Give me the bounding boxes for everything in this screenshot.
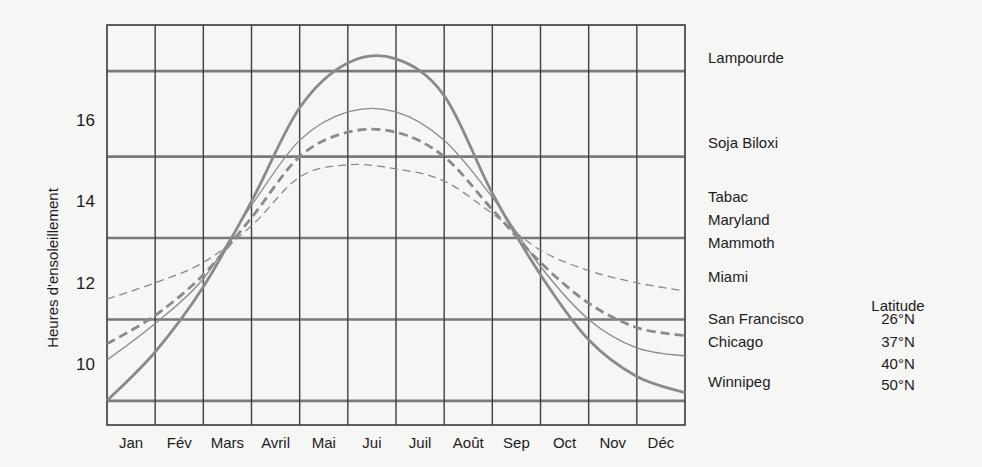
month-label: Déc [648, 434, 675, 451]
city-label: Chicago [708, 333, 763, 350]
city-label: Winnipeg [708, 373, 771, 390]
chart-plot-area: JanFévMarsAvrilMaiJuiJuilAoûtSepOctNovDé… [0, 0, 982, 467]
latitude-value: 40°N [858, 355, 938, 372]
x-axis-month-labels: JanFévMarsAvrilMaiJuiJuilAoûtSepOctNovDé… [119, 434, 675, 451]
photoperiod-chart: JanFévMarsAvrilMaiJuiJuilAoûtSepOctNovDé… [0, 0, 982, 467]
y-tick-label: 16 [76, 111, 95, 130]
city-label: San Francisco [708, 310, 804, 327]
month-label: Mai [312, 434, 336, 451]
month-label: Jan [119, 434, 143, 451]
latitude-value: 50°N [858, 376, 938, 393]
month-label: Avril [261, 434, 290, 451]
y-axis-label: Heures d'ensoleillement [44, 187, 61, 347]
plant-label: Soja Biloxi [708, 134, 778, 151]
plant-label: Mammoth [708, 234, 775, 251]
y-tick-label: 14 [76, 192, 95, 211]
month-label: Août [453, 434, 485, 451]
y-tick-label: 12 [76, 274, 95, 293]
month-grid-lines [155, 25, 637, 425]
month-label: Nov [599, 434, 626, 451]
month-label: Juil [409, 434, 432, 451]
month-label: Oct [553, 434, 577, 451]
plant-label: Lampourde [708, 49, 784, 66]
month-label: Mars [211, 434, 244, 451]
y-tick-label: 10 [76, 355, 95, 374]
month-label: Fév [167, 434, 193, 451]
latitude-value: 26°N [858, 310, 938, 327]
plant-label: Tabac [708, 188, 748, 205]
latitude-value: 37°N [858, 333, 938, 350]
month-label: Jui [362, 434, 381, 451]
plant-label: Maryland [708, 211, 770, 228]
city-label: Miami [708, 268, 748, 285]
month-label: Sep [503, 434, 530, 451]
y-axis-tick-labels: 10121416 [76, 111, 95, 374]
